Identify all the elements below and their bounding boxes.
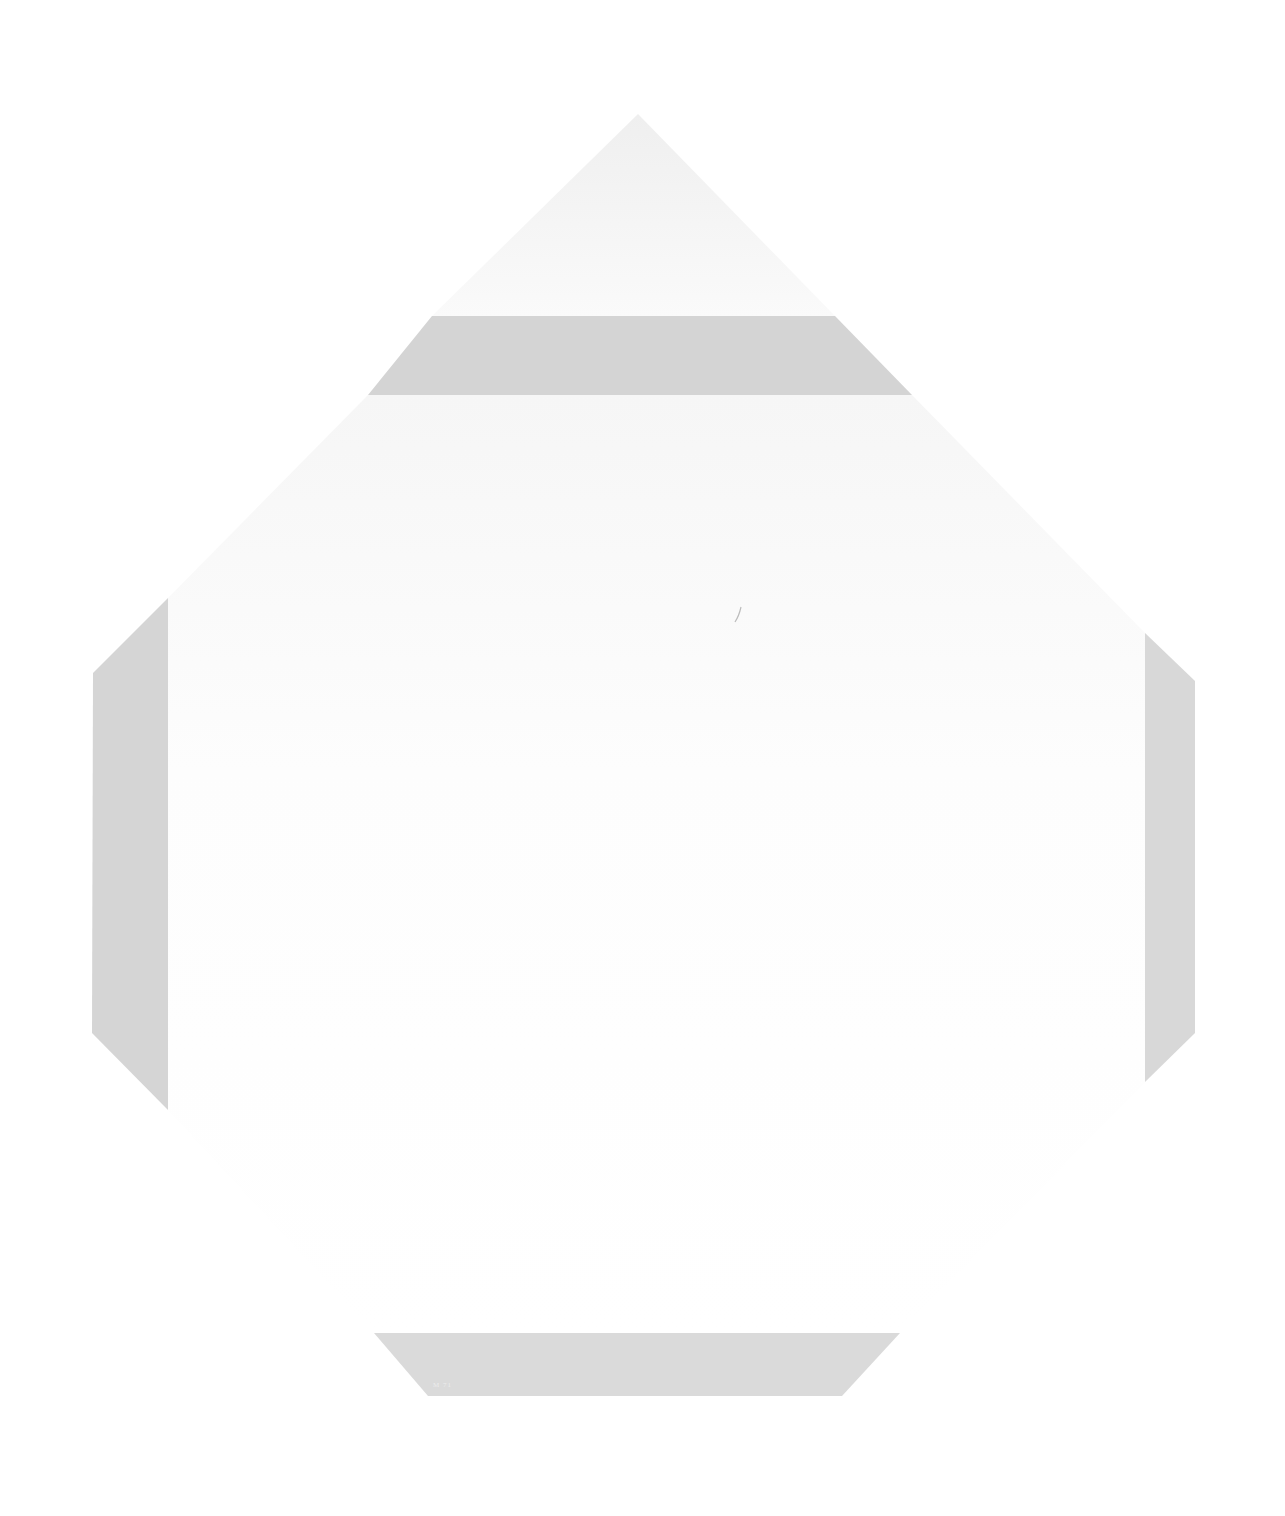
artist-signature: M 71 xyxy=(433,1381,452,1389)
top-band xyxy=(368,316,912,395)
left-band xyxy=(92,598,168,1110)
artwork-canvas xyxy=(0,0,1285,1516)
ghost-body xyxy=(168,395,1145,1333)
right-band xyxy=(1145,633,1195,1082)
ghost-triangle xyxy=(432,114,835,316)
bottom-band xyxy=(374,1333,900,1396)
